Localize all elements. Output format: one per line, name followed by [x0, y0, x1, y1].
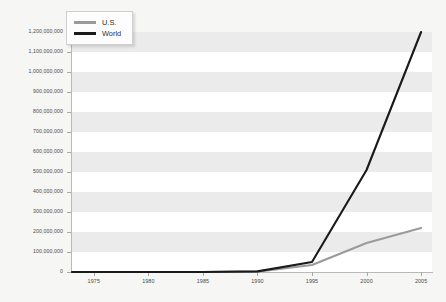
series-line-world [72, 32, 421, 272]
legend-swatch-us [74, 21, 96, 23]
chart-legend: U.S. World [66, 11, 133, 45]
line-chart: 0100,000,000200,000,000300,000,000400,00… [0, 0, 446, 302]
legend-item-us: U.S. [74, 17, 121, 28]
legend-swatch-world [74, 32, 96, 35]
legend-item-world: World [74, 28, 121, 39]
series-layer [0, 0, 446, 302]
legend-label-world: World [102, 30, 121, 37]
legend-label-us: U.S. [102, 19, 116, 26]
series-line-us [72, 228, 421, 272]
